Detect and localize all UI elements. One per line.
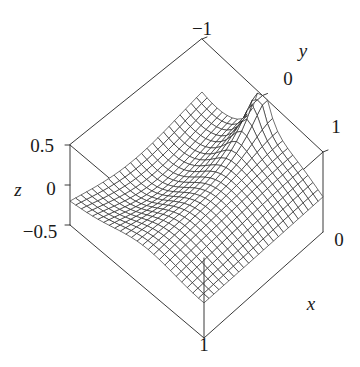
axis-label-x: x xyxy=(307,294,315,313)
tick-label-y-1: 1 xyxy=(331,117,341,136)
y-tick-2 xyxy=(323,150,328,152)
tick-label-y-minus1: −1 xyxy=(192,19,212,38)
y-tick-1 xyxy=(263,94,268,96)
tick-label-x-0: 0 xyxy=(334,230,344,249)
tick-label-z-neg0p5: −0.5 xyxy=(23,222,57,241)
axis-label-z: z xyxy=(14,180,21,199)
tick-label-y-0: 0 xyxy=(283,69,293,88)
surface-plot-figure: −1 0 1 y 0 1 x 0.5 0 −0.5 z xyxy=(0,0,360,367)
tick-label-x-1: 1 xyxy=(199,335,209,354)
tick-label-z-0p5: 0.5 xyxy=(30,136,54,155)
axis-label-y: y xyxy=(299,41,307,60)
surface-mesh xyxy=(70,92,323,303)
tick-label-z-0: 0 xyxy=(46,179,56,198)
